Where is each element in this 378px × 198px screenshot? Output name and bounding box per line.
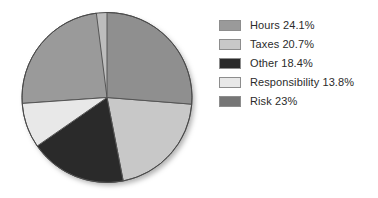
legend-label-taxes: Taxes 20.7% bbox=[250, 39, 314, 50]
legend-swatch-responsibility bbox=[219, 77, 241, 88]
pie-chart-plot-area bbox=[0, 0, 215, 198]
legend-swatch-risk bbox=[219, 96, 241, 107]
legend-swatch-taxes bbox=[219, 39, 241, 50]
pie-slice-group bbox=[22, 13, 192, 183]
legend-item-other[interactable]: Other 18.4% bbox=[219, 54, 377, 73]
pie-chart-svg bbox=[0, 0, 215, 198]
legend-swatch-other bbox=[219, 58, 241, 69]
legend-item-hours[interactable]: Hours 24.1% bbox=[219, 16, 377, 35]
legend-label-other: Other 18.4% bbox=[250, 58, 313, 69]
legend-item-taxes[interactable]: Taxes 20.7% bbox=[219, 35, 377, 54]
pie-slice-hours[interactable] bbox=[22, 13, 107, 103]
pie-chart-figure: Hours 24.1% Taxes 20.7% Other 18.4% Resp… bbox=[0, 0, 378, 198]
legend-label-responsibility: Responsibility 13.8% bbox=[250, 77, 354, 88]
legend-item-responsibility[interactable]: Responsibility 13.8% bbox=[219, 73, 377, 92]
legend-item-risk[interactable]: Risk 23% bbox=[219, 92, 377, 111]
legend-label-risk: Risk 23% bbox=[250, 96, 297, 107]
chart-legend: Hours 24.1% Taxes 20.7% Other 18.4% Resp… bbox=[219, 16, 377, 111]
legend-swatch-hours bbox=[219, 20, 241, 31]
pie-slice-risk[interactable] bbox=[107, 13, 192, 105]
legend-label-hours: Hours 24.1% bbox=[250, 20, 315, 31]
